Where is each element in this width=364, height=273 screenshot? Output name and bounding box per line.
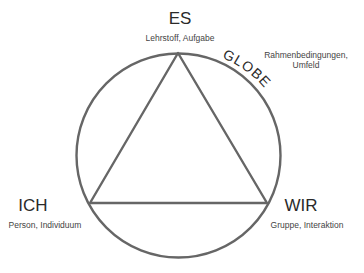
globe-subtitle-line1: Rahmenbedingungen, [254,50,358,60]
tzi-diagram: GLOBE ES Lehrstoff, Aufgabe Rahmenbeding… [0,0,364,273]
globe-subtitle-line2: Umfeld [254,60,358,70]
ich-title: ICH [13,197,53,215]
globe-subtitle: Rahmenbedingungen, Umfeld [254,50,358,70]
globe-circle [77,54,281,258]
wir-title: WIR [279,197,323,215]
es-subtitle: Lehrstoff, Aufgabe [128,33,232,43]
es-title: ES [160,10,200,28]
wir-subtitle: Gruppe, Interaktion [262,220,352,230]
ich-subtitle: Person, Individuum [0,220,90,230]
